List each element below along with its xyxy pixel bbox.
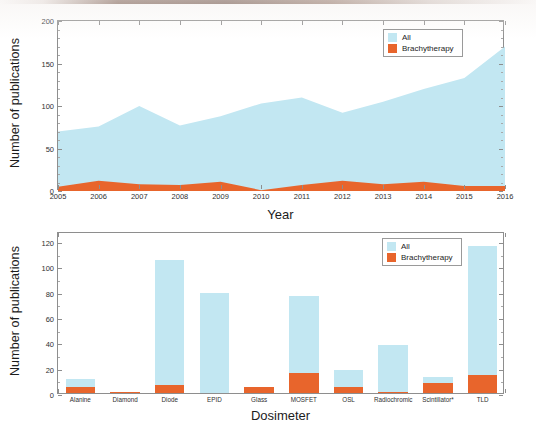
bar-group[interactable] xyxy=(200,231,230,393)
y-tick-mark-minor xyxy=(58,89,60,90)
y-tick-label: 80 xyxy=(46,289,54,298)
x-tick-mark xyxy=(505,233,506,237)
x-tick-mark xyxy=(302,185,303,189)
bar-segment-brachytherapy xyxy=(110,392,140,393)
legend-label-all: All xyxy=(401,243,410,251)
x-tick-mark xyxy=(139,185,140,189)
y-tick-mark-minor xyxy=(501,281,503,282)
x-tick-mark xyxy=(464,185,465,189)
x-tick-mark xyxy=(261,21,262,25)
scan-page-edge xyxy=(0,0,536,4)
x-tick-mark xyxy=(180,21,181,25)
legend-dosimeter-chart[interactable]: All Brachytherapy xyxy=(382,238,462,266)
bar-group[interactable] xyxy=(155,231,185,393)
y-tick-mark-minor xyxy=(58,281,60,282)
y-tick-mark-minor xyxy=(501,256,503,257)
y-tick-mark-minor xyxy=(501,357,503,358)
bar-group[interactable] xyxy=(468,231,498,393)
x-tick-mark xyxy=(424,21,425,25)
x-tick-mark xyxy=(261,185,262,189)
y-tick-mark xyxy=(58,294,62,295)
legend-label-all: All xyxy=(402,34,411,42)
x-tick-mark xyxy=(58,21,59,25)
y-tick-mark-minor xyxy=(501,132,503,133)
y-tick-mark-minor xyxy=(58,382,60,383)
y-tick-mark-minor xyxy=(501,166,503,167)
y-tick-mark-minor xyxy=(501,140,503,141)
y-tick-mark xyxy=(58,149,62,150)
bar-group[interactable] xyxy=(334,231,364,393)
x-tick-label: 2010 xyxy=(253,192,270,201)
x-tick-label: Diamond xyxy=(112,396,137,403)
y-tick-mark-minor xyxy=(58,357,60,358)
y-tick-label: 50 xyxy=(46,144,54,153)
bar-segment-all xyxy=(468,246,498,393)
y-tick-mark-minor xyxy=(58,115,60,116)
y-tick-mark xyxy=(58,64,62,65)
y-tick-mark xyxy=(499,106,503,107)
bar-segment-all xyxy=(155,260,185,393)
legend-label-brachytherapy: Brachytherapy xyxy=(401,254,453,262)
legend-entry-brachytherapy: Brachytherapy xyxy=(387,253,453,262)
y-tick-mark-minor xyxy=(501,72,503,73)
y-tick-mark-minor xyxy=(58,306,60,307)
bar-group[interactable] xyxy=(289,231,319,393)
x-tick-mark xyxy=(221,185,222,189)
x-tick-label: Diode xyxy=(162,396,178,403)
x-tick-label: Radiochromic xyxy=(374,396,413,403)
y-tick-mark-minor xyxy=(501,115,503,116)
x-tick-label: MOSFET xyxy=(291,396,317,403)
x-tick-label: Scintillator* xyxy=(422,396,454,403)
y-tick-mark-minor xyxy=(58,123,60,124)
y-tick-mark xyxy=(499,149,503,150)
y-tick-mark xyxy=(499,21,503,22)
y-tick-mark-minor xyxy=(58,98,60,99)
y-tick-mark-minor xyxy=(58,47,60,48)
legend-label-brachytherapy: Brachytherapy xyxy=(402,45,454,53)
x-tick-label: 2006 xyxy=(90,192,107,201)
y-tick-mark-minor xyxy=(58,38,60,39)
x-tick-label: 2005 xyxy=(50,192,67,201)
legend-year-chart[interactable]: All Brachytherapy xyxy=(383,29,463,57)
y-tick-label: 0 xyxy=(50,391,54,400)
legend-swatch-brachytherapy xyxy=(388,44,397,53)
bar-segment-brachytherapy xyxy=(423,383,453,393)
y-tick-mark xyxy=(499,395,503,396)
y-tick-mark-minor xyxy=(58,166,60,167)
y-tick-mark xyxy=(58,319,62,320)
x-tick-label: 2012 xyxy=(334,192,351,201)
x-tick-label: Alanine xyxy=(70,396,91,403)
y-axis-label-dosimeter-chart: Number of publications xyxy=(8,231,22,391)
bar-group[interactable] xyxy=(110,231,140,393)
y-tick-label: 60 xyxy=(46,315,54,324)
y-tick-mark xyxy=(58,395,62,396)
y-tick-label: 20 xyxy=(46,365,54,374)
x-tick-mark xyxy=(58,185,59,189)
x-tick-mark xyxy=(342,185,343,189)
y-tick-mark-minor xyxy=(501,38,503,39)
bar-group[interactable] xyxy=(244,231,274,393)
bar-segment-brachytherapy xyxy=(244,387,274,393)
y-tick-mark-minor xyxy=(58,81,60,82)
y-tick-label: 40 xyxy=(46,340,54,349)
bar-group[interactable] xyxy=(66,231,96,393)
legend-swatch-all xyxy=(388,33,397,42)
y-tick-mark xyxy=(499,319,503,320)
y-tick-mark xyxy=(499,344,503,345)
legend-entry-all: All xyxy=(387,242,453,251)
y-tick-mark-minor xyxy=(501,30,503,31)
x-tick-label: 2011 xyxy=(294,192,310,201)
x-tick-label: 2007 xyxy=(131,192,148,201)
bar-segment-all xyxy=(378,345,408,393)
y-tick-mark xyxy=(499,64,503,65)
x-tick-mark xyxy=(383,185,384,189)
y-tick-mark-minor xyxy=(501,183,503,184)
bar-segment-brachytherapy xyxy=(66,387,96,393)
bar-segment-brachytherapy xyxy=(334,387,364,393)
x-tick-label: 2016 xyxy=(497,192,514,201)
y-tick-mark-minor xyxy=(501,55,503,56)
y-tick-mark-minor xyxy=(58,256,60,257)
x-tick-label: 2013 xyxy=(375,192,392,201)
x-tick-label: TLD xyxy=(477,396,489,403)
x-tick-label: Glass xyxy=(251,396,267,403)
